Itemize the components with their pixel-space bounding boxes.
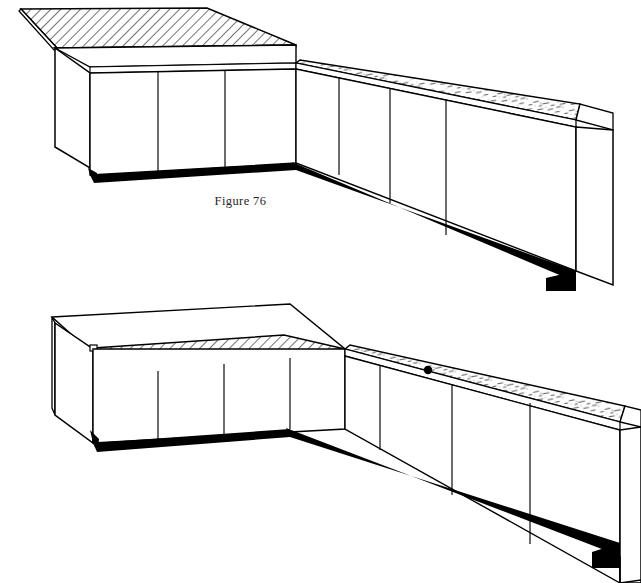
drill-hole-dot (424, 366, 432, 374)
left-leg-door-face (93, 349, 345, 443)
right-end-panel (576, 127, 613, 285)
left-leg-door-face (90, 69, 296, 175)
right-leg-cabinet (296, 60, 613, 285)
left-leg-door-run (93, 349, 345, 443)
figure-76-drawing (0, 0, 641, 291)
figure-76-caption: Figure 76 (0, 194, 561, 209)
hatched-panel-top-face (21, 8, 296, 48)
right-end-panel (620, 427, 641, 583)
illustration-page: Figure 76 (0, 0, 641, 583)
left-leg-cabinet (55, 45, 296, 175)
left-end-panel (55, 48, 90, 168)
figure-77: Figure 77 (0, 290, 641, 583)
lifted-hatched-countertop-panel (19, 8, 296, 50)
speckled-countertop-right-edge (576, 104, 613, 130)
figure-76: Figure 76 (0, 0, 641, 291)
right-leg-cabinet (345, 345, 641, 583)
figure-77-drawing (0, 290, 641, 583)
